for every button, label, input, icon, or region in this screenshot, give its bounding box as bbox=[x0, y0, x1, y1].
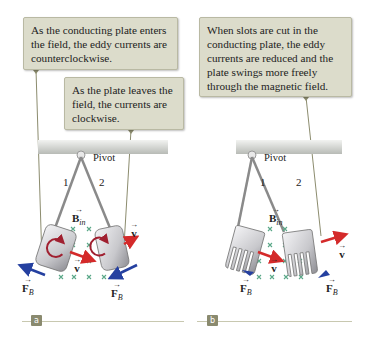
callout-leaving: As the plate leaves the field, the curre… bbox=[64, 77, 184, 130]
panel-a-divider bbox=[22, 321, 184, 322]
force-label-a1: →FB bbox=[22, 276, 34, 297]
force-label-b2: →FB bbox=[326, 276, 338, 297]
slotted-plate-2-b bbox=[282, 229, 318, 277]
force-label-a2: →FB bbox=[111, 281, 123, 302]
velocity-label-a1: →v bbox=[73, 256, 81, 274]
panel-b-graphics bbox=[225, 97, 344, 279]
callout-slots: When slots are cut in the conducting pla… bbox=[199, 17, 352, 97]
velocity-label-b1: →v bbox=[270, 256, 278, 274]
position-label-2-a: 2 bbox=[99, 176, 105, 188]
plate-2-a bbox=[87, 225, 130, 273]
force-label-b1: →FB bbox=[240, 276, 252, 297]
position-label-1-a: 1 bbox=[63, 176, 69, 188]
callout-entering: As the conducting plate enters the field… bbox=[23, 17, 178, 70]
field-label-b: →Bin bbox=[269, 206, 283, 227]
pivot-label-b: Pivot bbox=[264, 152, 286, 163]
panel-tag-a: a bbox=[31, 315, 42, 326]
panel-tag-b: b bbox=[207, 315, 218, 326]
velocity-label-b2: →v bbox=[338, 242, 346, 260]
velocity-label-a2: →v bbox=[130, 221, 138, 239]
panel-b-divider bbox=[197, 321, 352, 322]
field-label-a: →Bin bbox=[72, 206, 86, 227]
position-label-2-b: 2 bbox=[296, 176, 302, 188]
slotted-plate-1-b bbox=[225, 225, 265, 275]
position-label-1-b: 1 bbox=[260, 176, 266, 188]
pivot-label-a: Pivot bbox=[93, 152, 115, 163]
